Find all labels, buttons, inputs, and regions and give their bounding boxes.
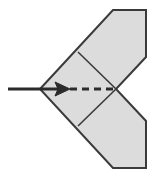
diagram-canvas — [0, 0, 156, 178]
folding-diagram — [0, 0, 156, 178]
